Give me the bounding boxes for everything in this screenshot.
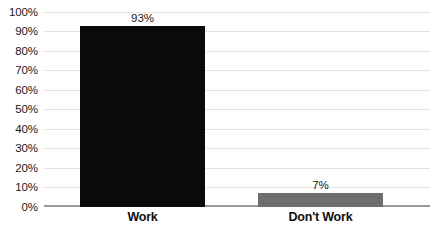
y-axis-tick-label-60: 60% <box>0 85 38 97</box>
y-axis-tick-label-80: 80% <box>0 46 38 58</box>
category-label-dont-work: Don't Work <box>258 211 383 224</box>
y-axis-tick-label-100: 100% <box>0 7 38 19</box>
y-axis-tick-label-50: 50% <box>0 104 38 116</box>
category-label-work: Work <box>80 211 205 224</box>
y-axis-tick-label-40: 40% <box>0 124 38 136</box>
y-axis-tick-label-70: 70% <box>0 65 38 77</box>
value-label-work: 93% <box>80 13 205 25</box>
y-axis-tick-label-20: 20% <box>0 163 38 175</box>
bar-work[interactable] <box>80 26 205 207</box>
bar-chart: 100% 90% 80% 70% 60% 50% 40% 30% 20% 10%… <box>0 0 434 230</box>
y-axis-tick-label-30: 30% <box>0 143 38 155</box>
bar-dont-work[interactable] <box>258 193 383 207</box>
value-label-dont-work: 7% <box>258 180 383 192</box>
y-axis-tick-label-0: 0% <box>0 202 38 214</box>
y-axis-tick-label-90: 90% <box>0 26 38 38</box>
plot-area: 93% 7% <box>44 12 430 207</box>
y-axis-tick-label-10: 10% <box>0 182 38 194</box>
